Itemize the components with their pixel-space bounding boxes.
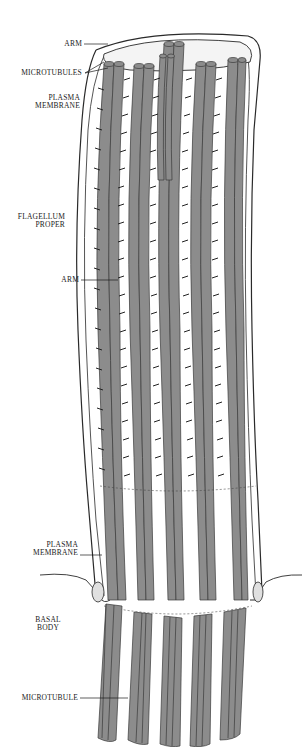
label-arm-top: ARM — [52, 40, 82, 48]
label-plasma-membrane-top-2: MEMBRANE — [20, 102, 80, 110]
flagellum-illustration — [0, 0, 308, 747]
label-plasma-membrane-bottom-2: MEMBRANE — [18, 549, 78, 557]
label-basal-body-2: BODY — [28, 624, 68, 632]
doublet-microtubules — [97, 42, 248, 601]
label-microtubule: MICROTUBULE — [8, 694, 78, 702]
flagellum-diagram: ARM MICROTUBULES PLASMA MEMBRANE FLAGELL… — [0, 0, 308, 747]
basal-body-triplets — [98, 604, 246, 747]
label-arm-mid: ARM — [45, 276, 79, 284]
label-flagellum-proper-2: PROPER — [5, 221, 65, 229]
label-microtubules: MICROTUBULES — [10, 69, 82, 77]
